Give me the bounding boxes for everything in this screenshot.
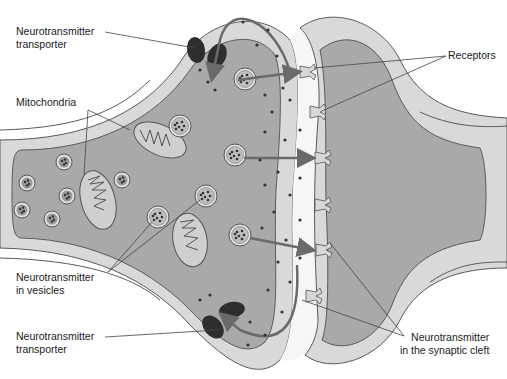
label-line: Neurotransmitter (400, 331, 489, 344)
label-transporter-top: Neurotransmitter transporter (16, 25, 94, 51)
synapse-illustration (0, 0, 507, 379)
label-vesicles: Neurotransmitter in vesicles (16, 271, 94, 297)
synapse-diagram: Neurotransmitter transporter Mitochondri… (0, 0, 507, 379)
label-cleft: Neurotransmitter in the synaptic cleft (400, 331, 489, 357)
label-line: Neurotransmitter (16, 330, 94, 343)
label-mitochondria: Mitochondria (16, 96, 76, 109)
label-line: Mitochondria (16, 96, 76, 109)
label-transporter-bottom: Neurotransmitter transporter (16, 330, 94, 356)
label-line: in vesicles (16, 284, 94, 297)
label-receptors: Receptors (448, 49, 496, 62)
label-line: transporter (16, 343, 94, 356)
label-line: Receptors (448, 49, 496, 62)
label-line: in the synaptic cleft (400, 344, 489, 357)
label-line: Neurotransmitter (16, 271, 94, 284)
label-line: Neurotransmitter (16, 25, 94, 38)
label-line: transporter (16, 38, 94, 51)
